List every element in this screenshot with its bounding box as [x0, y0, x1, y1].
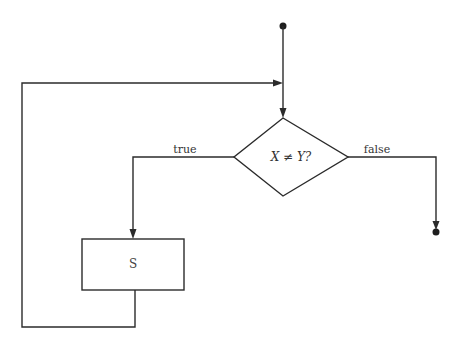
true-branch-connector [133, 157, 234, 235]
false-branch-connector [348, 157, 436, 226]
false-branch-label: false [364, 143, 390, 156]
flowchart-canvas: X ≠ Y? true S false [0, 0, 464, 345]
decision-condition-label: X ≠ Y? [270, 150, 312, 164]
true-branch-label: true [173, 143, 196, 156]
decision-entry-arrowhead [280, 108, 287, 118]
true-branch-arrowhead [130, 229, 137, 239]
end-terminal-dot [433, 229, 440, 236]
statement-label: S [129, 257, 137, 271]
loop-back-arrowhead [273, 80, 283, 87]
